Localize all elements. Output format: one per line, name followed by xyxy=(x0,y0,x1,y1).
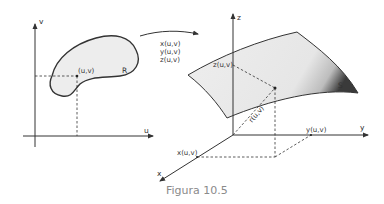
x-component-label: x(u,v) xyxy=(177,149,198,157)
y-component-point xyxy=(310,134,312,136)
x-axis xyxy=(160,135,233,181)
figure-caption: Figura 10.5 xyxy=(166,184,228,197)
y-projection-line xyxy=(275,135,311,157)
z-axis-label: z xyxy=(237,13,241,22)
surface-s xyxy=(188,32,358,118)
surface-s-label: S xyxy=(338,81,343,90)
mapping-z-label: z(u,v) xyxy=(160,56,180,64)
y-axis-label: y xyxy=(360,123,365,132)
v-axis-label: v xyxy=(39,17,44,26)
mapping-arrow xyxy=(140,31,198,36)
region-r-label: R xyxy=(122,66,127,75)
mapping: x(u,v) y(u,v) z(u,v) xyxy=(140,31,198,64)
diagram-canvas: v u (u,v) R x(u,v) y(u,v) z(u,v) z y x z… xyxy=(0,0,384,204)
mapping-y-label: y(u,v) xyxy=(160,48,181,56)
u-axis-label: u xyxy=(144,126,149,135)
parameter-plane: v u (u,v) R xyxy=(23,17,153,147)
z-component-label: z(u,v) xyxy=(213,61,233,69)
space-3d: z y x z(u,v) y(u,v) x(u,v) r(u,v) S xyxy=(157,13,368,181)
surface-point xyxy=(274,87,277,90)
y-component-label: y(u,v) xyxy=(306,126,327,134)
x-axis-label: x xyxy=(157,169,162,178)
mapping-x-label: x(u,v) xyxy=(160,40,181,48)
point-uv-label: (u,v) xyxy=(78,67,95,75)
point-uv xyxy=(76,75,79,78)
